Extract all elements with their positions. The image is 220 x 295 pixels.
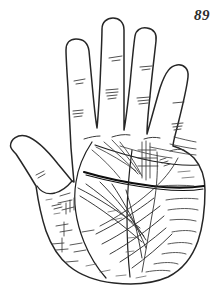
plate-figure: 89 bbox=[0, 0, 220, 295]
central-palm-lines bbox=[78, 182, 172, 268]
hand-diagram bbox=[0, 0, 220, 295]
index-finger-creases bbox=[73, 79, 85, 117]
ring-base-crease bbox=[144, 137, 160, 139]
upper-palm-minor-lines bbox=[92, 137, 196, 180]
hand-outline bbox=[11, 18, 206, 284]
index-base-crease bbox=[84, 136, 100, 139]
middle-finger-creases bbox=[106, 56, 122, 99]
heart-line bbox=[95, 145, 198, 165]
thumb-web-crease bbox=[37, 181, 72, 194]
middle-base-crease bbox=[112, 135, 130, 137]
